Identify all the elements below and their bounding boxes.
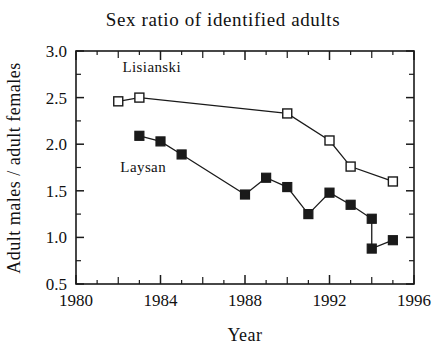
series-annotations-group: LisianskiLaysan (120, 59, 181, 176)
y-axis-tick-labels: 0.51.01.52.02.53.0 (46, 42, 67, 294)
data-point-laysan-1983 (135, 131, 144, 140)
data-point-lisianski-1995 (388, 177, 397, 186)
x-tick-label-1988: 1988 (228, 291, 262, 310)
data-point-lisianski-1983 (135, 93, 144, 102)
chart-title-group: Sex ratio of identified adults (106, 9, 340, 30)
data-point-lisianski-1982 (114, 97, 123, 106)
y-tick-label-1.0: 1.0 (46, 228, 67, 247)
y-tick-label-2.0: 2.0 (46, 135, 67, 154)
data-point-laysan-1985 (177, 150, 186, 159)
data-point-laysan-1989 (262, 173, 271, 182)
x-axis-title-group: Year (227, 325, 262, 345)
data-point-laysan-1988 (241, 190, 250, 199)
y-tick-label-0.5: 0.5 (46, 275, 67, 294)
data-point-laysan-1990 (283, 183, 292, 192)
data-point-lisianski-1992 (325, 136, 334, 145)
x-tick-label-1984: 1984 (144, 291, 179, 310)
data-point-laysan-1994 (367, 244, 376, 253)
series-annotation-laysan: Laysan (120, 159, 166, 175)
y-axis-title-group: Adult males / adult females (4, 62, 24, 273)
x-axis-title: Year (227, 325, 262, 345)
sex-ratio-line-chart: Sex ratio of identified adults Adult mal… (0, 0, 447, 351)
chart-figure: Sex ratio of identified adults Adult mal… (0, 0, 447, 351)
x-tick-label-1992: 1992 (313, 291, 347, 310)
data-point-laysan-1994 (367, 214, 376, 223)
y-tick-label-3.0: 3.0 (46, 42, 67, 61)
y-tick-label-1.5: 1.5 (46, 182, 67, 201)
data-point-laysan-1992 (325, 188, 334, 197)
y-tick-label-2.5: 2.5 (46, 89, 67, 108)
x-tick-label-1996: 1996 (397, 291, 431, 310)
data-point-laysan-1995 (388, 236, 397, 245)
data-point-lisianski-1993 (346, 162, 355, 171)
chart-title: Sex ratio of identified adults (106, 9, 340, 30)
data-point-laysan-1984 (156, 137, 165, 146)
y-axis-title: Adult males / adult females (4, 62, 24, 273)
data-point-lisianski-1990 (283, 109, 292, 118)
series-annotation-lisianski: Lisianski (122, 59, 181, 75)
data-point-laysan-1991 (304, 210, 313, 219)
x-axis-tick-labels: 19801984198819921996 (59, 291, 431, 310)
data-point-laysan-1993 (346, 200, 355, 209)
